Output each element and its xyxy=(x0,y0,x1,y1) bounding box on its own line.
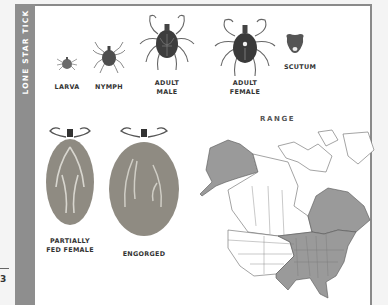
label-engorged: ENGORGED xyxy=(118,250,170,259)
scutum-icon xyxy=(284,33,306,55)
label-adult-female-line2: FEMALE xyxy=(225,88,265,97)
nymph-tick-icon xyxy=(92,38,126,74)
edge-rule xyxy=(0,268,9,269)
label-adult-male-line2: MALE xyxy=(147,88,187,97)
label-larva: LARVA xyxy=(50,83,84,92)
label-partially-fed-line2: FED FEMALE xyxy=(44,246,96,255)
range-title: RANGE xyxy=(260,115,295,123)
map-arctic-islands xyxy=(278,130,374,172)
adult-female-tick-icon xyxy=(213,12,277,78)
side-title: LONE STAR TICK xyxy=(21,9,30,94)
engorged-tick-icon xyxy=(107,125,181,237)
range-map xyxy=(198,126,376,302)
label-adult-male-line1: ADULT xyxy=(147,79,187,88)
adult-male-tick-icon xyxy=(138,12,196,72)
figure-page: 3 LONE STAR TICK LARVA NYMPH ADULT MALE xyxy=(0,0,388,305)
partially-fed-female-tick-icon xyxy=(44,125,96,227)
label-adult-male: ADULT MALE xyxy=(147,79,187,96)
label-partially-fed-line1: PARTIALLY xyxy=(44,237,96,246)
larva-tick-icon xyxy=(56,54,78,72)
label-scutum: SCUTUM xyxy=(280,63,320,72)
edge-page-mark: 3 xyxy=(0,274,6,284)
map-eastern-canada xyxy=(308,188,370,234)
label-adult-female: ADULT FEMALE xyxy=(225,79,265,96)
label-nymph: NYMPH xyxy=(92,83,126,92)
label-adult-female-line1: ADULT xyxy=(225,79,265,88)
label-partially-fed-female: PARTIALLY FED FEMALE xyxy=(44,237,96,254)
